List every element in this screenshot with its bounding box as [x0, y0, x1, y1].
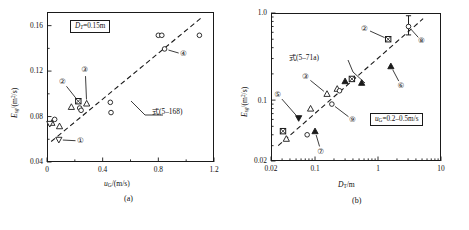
equation-label-a: 式(5–168) [152, 106, 182, 116]
data-point-callout: ③ [81, 66, 88, 74]
x-tick-label: 10 [421, 165, 461, 172]
info-box-b: uG=0.2–0.5m/s [370, 113, 423, 126]
data-point-callout: ③ [302, 73, 309, 81]
equation-label-b-num: (5–71a) [296, 53, 319, 62]
equation-label-b: 式(5–71a) [289, 52, 319, 62]
x-axis-title-a: uG/(m/s) [104, 179, 130, 188]
y-tick-label: 0.12 [3, 67, 43, 74]
panel-caption-b: (b) [352, 196, 361, 205]
y-tick-label: 0.16 [3, 22, 43, 29]
data-point-callout: ① [77, 137, 84, 145]
y-axis-title-a-rest: /(m [10, 98, 19, 109]
y-axis-title-b-tail: /s) [240, 87, 249, 95]
x-tick-label: 0.8 [138, 166, 178, 173]
data-point-callout: ⑤ [274, 91, 281, 99]
figure-root: DT=0.15m 式(5–168) uG/(m/s) Esg/(m2/s) (a… [0, 0, 469, 230]
y-axis-title-b-sub: sg [243, 108, 249, 113]
x-tick-label: 0.4 [83, 166, 123, 173]
panel-caption-a: (a) [124, 194, 133, 203]
data-point-callout: ⑦ [317, 148, 324, 156]
equation-label-a-num: (5–168) [159, 107, 182, 116]
x-axis-title-b: DT/m [338, 180, 355, 189]
data-point-callout: ⑨ [349, 116, 356, 124]
chart-panel-a: DT=0.15m 式(5–168) uG/(m/s) Esg/(m2/s) (a… [0, 0, 234, 230]
data-point-callout: ② [59, 78, 66, 86]
equation-label-a-cjk: 式 [152, 107, 159, 116]
y-tick-label: 0.02 [227, 157, 267, 164]
data-point-callout: ② [361, 25, 368, 33]
data-point-callout: ④ [180, 50, 187, 58]
y-tick-label: 0.1 [227, 97, 267, 104]
y-axis-title-b-var: E [240, 112, 249, 117]
data-point-callout: ⑧ [418, 37, 425, 45]
info-box-a-rest: =0.15m [83, 22, 105, 30]
y-tick-label: 0.04 [3, 158, 43, 165]
x-tick-label: 0.02 [251, 165, 291, 172]
equation-label-b-cjk: 式 [289, 53, 296, 62]
y-axis-title-a-tail: /s) [10, 88, 19, 96]
chart-panel-b: uG=0.2–0.5m/s 式(5–71a) DT/m Esg/(m2/s) (… [235, 0, 469, 230]
x-axis-title-a-rest: /(m/s) [112, 179, 130, 188]
y-tick-label: 1.0 [227, 9, 267, 16]
y-axis-title-a-sup: 2 [10, 95, 16, 98]
x-tick-label: 1 [358, 165, 398, 172]
x-axis-title-b-rest: /m [347, 180, 355, 189]
info-box-a: DT=0.15m [70, 20, 110, 33]
x-tick-label: 1.2 [194, 166, 234, 173]
x-tick-label: 0.1 [295, 165, 335, 172]
y-tick-label: 0.08 [3, 113, 43, 120]
data-point-callout: ⑥ [397, 82, 404, 90]
x-tick-label: 0 [27, 166, 67, 173]
info-box-b-rest: =0.2–0.5m/s [382, 115, 418, 123]
